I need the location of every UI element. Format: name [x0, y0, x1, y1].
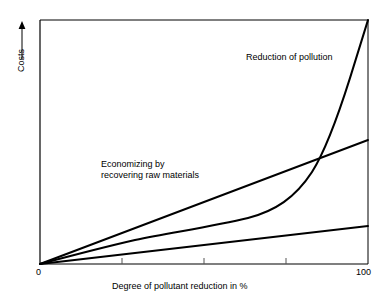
y-axis-arrow-head [19, 21, 26, 29]
chart-figure: Costs Degree of pollutant reduction in %… [0, 0, 384, 300]
series-label-reduction-of-pollution: Reduction of pollution [246, 52, 333, 63]
series-label-economizing-line1: Economizing by [101, 159, 165, 169]
x-tick-label-0: 0 [36, 267, 41, 278]
x-axis-label: Degree of pollutant reduction in % [112, 281, 248, 292]
series-label-economizing-line2: recovering raw materials [101, 170, 199, 180]
x-tick-label-100: 100 [356, 267, 371, 278]
chart-plot-area [0, 0, 384, 300]
y-axis-label: Costs [16, 31, 27, 91]
series-label-economizing: Economizing byrecovering raw materials [101, 159, 199, 181]
